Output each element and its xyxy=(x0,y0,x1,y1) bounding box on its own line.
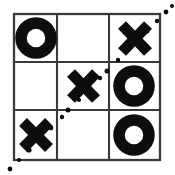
cell-1-2[interactable] xyxy=(109,62,159,110)
cell-0-1[interactable] xyxy=(57,15,109,62)
cell-0-2[interactable] xyxy=(109,15,159,62)
cell-2-0[interactable] xyxy=(15,110,57,159)
cell-2-2[interactable] xyxy=(109,110,159,159)
cell-1-1[interactable] xyxy=(57,62,109,110)
cell-0-0[interactable] xyxy=(15,15,57,62)
cell-2-1[interactable] xyxy=(57,110,109,159)
cell-1-0[interactable] xyxy=(15,62,57,110)
board-canvas xyxy=(0,0,175,175)
tic-tac-toe-board xyxy=(0,0,175,175)
